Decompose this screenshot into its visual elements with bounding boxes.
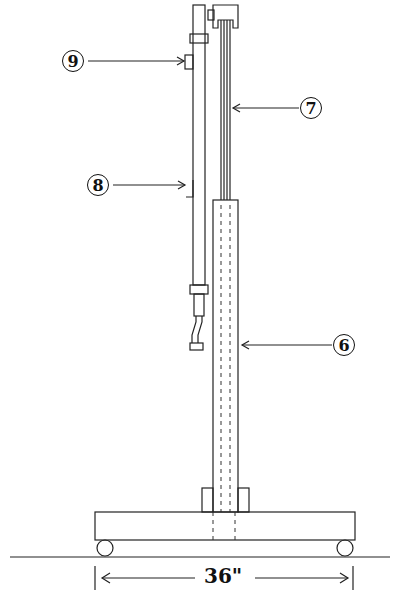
callout-6: 6 xyxy=(333,334,355,356)
callout-9: 9 xyxy=(62,50,84,72)
base xyxy=(10,512,390,557)
stand-drawing xyxy=(0,0,398,601)
dimension-label: 36" xyxy=(200,564,246,588)
caster-right xyxy=(337,540,353,556)
caster-left xyxy=(97,540,113,556)
outer-column xyxy=(202,200,249,512)
inner-tube xyxy=(213,5,238,200)
callout-8: 8 xyxy=(87,174,109,196)
callout-7: 7 xyxy=(300,97,322,119)
leader-arrows xyxy=(88,57,332,349)
left-rod xyxy=(185,5,214,350)
